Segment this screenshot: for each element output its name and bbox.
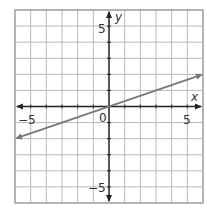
y-axis-label: y xyxy=(114,10,123,24)
coordinate-plane: −5 0 5 5 −5 x y xyxy=(0,0,207,216)
x-axis-label: x xyxy=(190,90,199,104)
x-tick-5: 5 xyxy=(183,113,191,127)
x-tick-neg5: −5 xyxy=(18,113,36,127)
y-tick-neg5: −5 xyxy=(88,181,106,195)
y-tick-5: 5 xyxy=(98,22,106,36)
origin-label: 0 xyxy=(99,111,107,125)
